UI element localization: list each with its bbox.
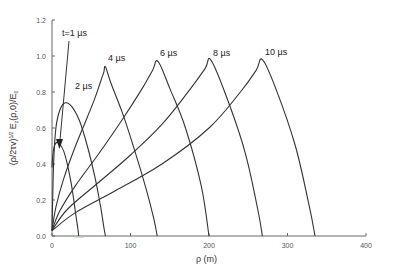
y-axis-label: (ρ/2τv)1/2 Ez(ρ,0)/E0 xyxy=(8,91,19,166)
x-axis-label: ρ (m) xyxy=(196,254,217,264)
y-tick-label: 1.0 xyxy=(36,53,46,60)
x-tick-label: 400 xyxy=(360,242,372,249)
annotation-arrow xyxy=(56,41,69,149)
curve-label-t4: 4 µs xyxy=(108,53,126,63)
curve-label-t1: t=1 µs xyxy=(62,28,87,38)
curve-series-2 xyxy=(52,66,157,236)
curve-series-0 xyxy=(52,142,79,236)
y-tick-label: 0.2 xyxy=(36,197,46,204)
x-tick-label: 200 xyxy=(203,242,215,249)
curve-label-t2: 2 µs xyxy=(75,81,93,91)
y-tick-label: 0.4 xyxy=(36,161,46,168)
y-tick-label: 0.6 xyxy=(36,125,46,132)
x-tick-label: 300 xyxy=(282,242,294,249)
curve-label-t6: 6 µs xyxy=(160,48,178,58)
y-tick-label: 0.8 xyxy=(36,89,46,96)
curve-label-t8: 8 µs xyxy=(213,48,231,58)
curve-series-1 xyxy=(52,103,105,236)
y-axis-label-group: (ρ/2τv)1/2 Ez(ρ,0)/E0 xyxy=(8,91,19,166)
y-tick-label: 1.2 xyxy=(36,17,46,24)
y-tick-label: 0.0 xyxy=(36,233,46,240)
curve-label-t10: 10 µs xyxy=(265,47,288,57)
x-ticks: 0100200300400 xyxy=(50,233,372,249)
x-tick-label: 0 xyxy=(50,242,54,249)
chart-canvas: 0.00.20.40.60.81.01.2 0100200300400 t=1 … xyxy=(0,0,396,280)
arrow-line xyxy=(60,41,69,140)
x-tick-label: 100 xyxy=(125,242,137,249)
